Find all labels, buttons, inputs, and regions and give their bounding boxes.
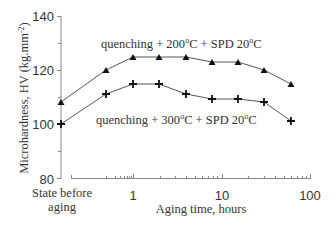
- series-200C: [58, 54, 295, 105]
- annotation-200C: quenching + 200oC + SPD 20oC: [101, 36, 262, 51]
- y-axis: [57, 16, 61, 179]
- y-tick-100: 100: [32, 117, 54, 132]
- y-axis-label: Microhardness, HV (kg.mm-2): [17, 22, 31, 174]
- y-tick-140: 140: [32, 9, 54, 24]
- x-tick-10: 10: [215, 188, 229, 203]
- x-tick-100: 100: [299, 188, 321, 203]
- x-axis-label: Aging time, hours: [156, 202, 247, 216]
- microhardness-chart: 140 120 100 80 Microhardness, HV (kg.mm-…: [0, 0, 333, 230]
- x-tick-labels: 1 10 100: [129, 188, 320, 203]
- x-category-before-line1: State before: [32, 186, 92, 200]
- y-tick-80: 80: [40, 172, 54, 187]
- annotation-300C: quenching + 300oC + SPD 20oC: [96, 112, 257, 127]
- x-tick-1: 1: [129, 188, 136, 203]
- x-category-before-line2: aging: [48, 200, 77, 214]
- y-tick-labels: 140 120 100 80: [32, 9, 54, 187]
- x-axis: [71, 174, 311, 179]
- y-tick-120: 120: [32, 63, 54, 78]
